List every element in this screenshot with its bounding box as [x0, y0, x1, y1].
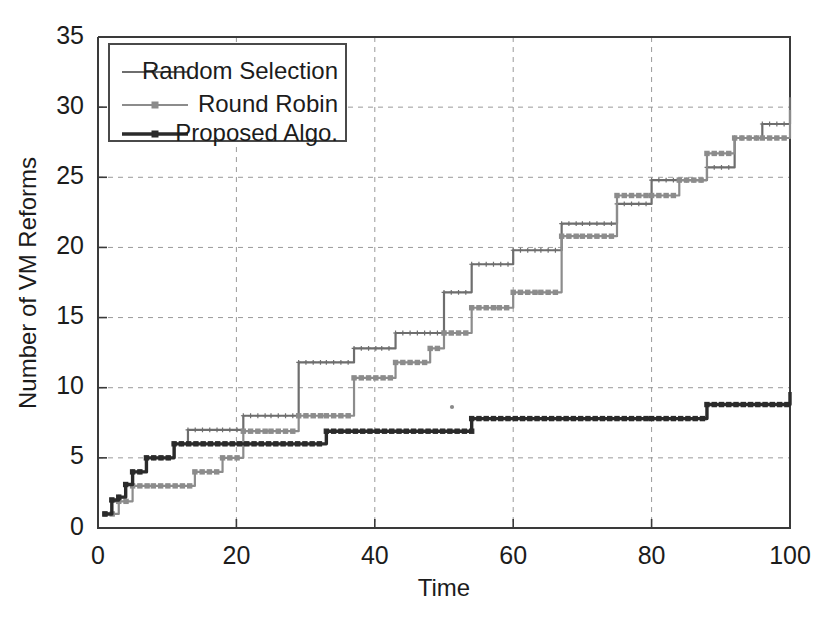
data-point-marker: [608, 416, 612, 420]
data-point-marker: [423, 360, 427, 364]
data-point-marker: [230, 442, 234, 446]
data-point-marker: [455, 429, 459, 433]
data-point-marker: [520, 416, 524, 420]
data-point-marker: [172, 442, 176, 446]
chart-legend[interactable]: Random SelectionRound RobinProposed Algo…: [109, 44, 346, 146]
data-point-marker: [303, 442, 307, 446]
data-point-marker: [535, 416, 539, 420]
data-point-marker: [542, 416, 546, 420]
data-point-marker: [579, 416, 583, 420]
scan-artifact-speck: [450, 405, 454, 409]
data-point-marker: [505, 306, 509, 310]
x-tick-label: 20: [222, 541, 250, 569]
x-tick-label: 80: [638, 541, 666, 569]
data-point-marker: [712, 402, 716, 406]
data-point-marker: [381, 376, 385, 380]
data-point-marker: [276, 429, 280, 433]
data-point-marker: [138, 470, 142, 474]
data-point-marker: [382, 429, 386, 433]
data-point-marker: [180, 484, 184, 488]
data-point-marker: [733, 136, 737, 140]
data-point-marker: [397, 429, 401, 433]
data-point-marker: [274, 442, 278, 446]
data-point-marker: [124, 499, 128, 503]
data-point-marker: [368, 429, 372, 433]
data-point-marker: [462, 429, 466, 433]
data-point-marker: [586, 416, 590, 420]
data-point-marker: [699, 178, 703, 182]
data-point-marker: [263, 429, 267, 433]
y-tick-label: 30: [56, 91, 84, 119]
legend-label: Proposed Algo.: [175, 119, 338, 146]
data-point-marker: [484, 416, 488, 420]
data-point-marker: [411, 429, 415, 433]
data-point-marker: [727, 151, 731, 155]
data-point-marker: [188, 484, 192, 488]
data-point-marker: [664, 416, 668, 420]
data-point-marker: [324, 414, 328, 418]
data-point-marker: [657, 416, 661, 420]
data-point-marker: [571, 416, 575, 420]
data-point-marker: [740, 136, 744, 140]
data-point-marker: [339, 414, 343, 418]
y-axis-title: Number of VM Reforms: [14, 157, 41, 409]
data-point-marker: [359, 376, 363, 380]
data-point-marker: [506, 416, 510, 420]
data-point-marker: [477, 306, 481, 310]
x-axis-title: Time: [418, 574, 470, 601]
data-point-marker: [615, 416, 619, 420]
data-point-marker: [600, 416, 604, 420]
data-point-marker: [324, 429, 328, 433]
data-point-marker: [677, 178, 681, 182]
data-point-marker: [366, 376, 370, 380]
data-point-marker: [179, 442, 183, 446]
data-point-marker: [692, 178, 696, 182]
data-point-marker: [609, 234, 613, 238]
data-point-marker: [318, 414, 322, 418]
data-point-marker: [595, 234, 599, 238]
data-point-marker: [346, 414, 350, 418]
x-tick-label: 0: [91, 541, 105, 569]
y-tick-label: 15: [56, 301, 84, 329]
y-tick-label: 25: [56, 161, 84, 189]
data-point-marker: [705, 151, 709, 155]
data-point-marker: [518, 290, 522, 294]
y-tick-label: 0: [70, 512, 84, 540]
data-point-marker: [644, 193, 648, 197]
x-tick-label: 60: [499, 541, 527, 569]
y-tick-label: 5: [70, 441, 84, 469]
data-point-marker: [564, 416, 568, 420]
legend-item-random-selection[interactable]: Random Selection: [122, 57, 338, 84]
data-point-marker: [166, 456, 170, 460]
data-point-marker: [650, 416, 654, 420]
data-point-marker: [419, 429, 423, 433]
data-point-marker: [553, 290, 557, 294]
data-point-marker: [550, 416, 554, 420]
data-point-marker: [622, 416, 626, 420]
data-point-marker: [393, 360, 397, 364]
data-point-marker: [193, 470, 197, 474]
data-point-marker: [700, 416, 704, 420]
legend-marker: [152, 131, 158, 137]
data-point-marker: [117, 495, 121, 499]
data-point-marker: [557, 416, 561, 420]
data-point-marker: [778, 402, 782, 406]
data-point-marker: [151, 484, 155, 488]
data-point-marker: [269, 429, 273, 433]
data-point-marker: [291, 429, 295, 433]
data-point-marker: [497, 306, 501, 310]
data-point-marker: [173, 484, 177, 488]
data-point-marker: [756, 402, 760, 406]
data-point-marker: [138, 484, 142, 488]
data-point-marker: [235, 456, 239, 460]
data-point-marker: [220, 456, 224, 460]
data-point-marker: [152, 456, 156, 460]
data-point-marker: [401, 360, 405, 364]
data-point-marker: [237, 442, 241, 446]
data-point-marker: [767, 136, 771, 140]
data-point-marker: [727, 402, 731, 406]
data-point-marker: [664, 193, 668, 197]
data-point-marker: [719, 151, 723, 155]
data-point-marker: [734, 402, 738, 406]
data-point-marker: [215, 470, 219, 474]
